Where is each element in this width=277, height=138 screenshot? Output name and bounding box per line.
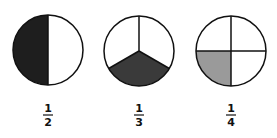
- denominator: 2: [44, 116, 52, 129]
- circle-one-quarter: [196, 16, 266, 86]
- denominator: 4: [227, 116, 235, 129]
- numerator: 1: [135, 102, 143, 115]
- fraction-label-one-half: 1 2: [43, 102, 53, 129]
- shaded-third: [109, 51, 170, 86]
- numerator: 1: [44, 102, 52, 115]
- fraction-circles-diagram: 1 2 1 3 1 4: [0, 0, 277, 138]
- circle-one-half: [13, 15, 83, 85]
- denominator: 3: [135, 116, 143, 129]
- fraction-label-one-third: 1 3: [134, 102, 144, 129]
- circle-one-third: [104, 16, 174, 86]
- fraction-label-one-quarter: 1 4: [226, 102, 236, 129]
- numerator: 1: [227, 102, 235, 115]
- shaded-half: [13, 15, 48, 85]
